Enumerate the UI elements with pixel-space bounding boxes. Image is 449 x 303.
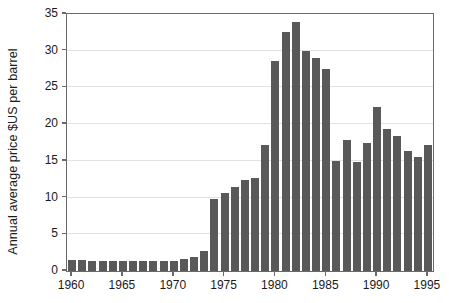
bar [129, 261, 137, 271]
bar [149, 261, 157, 271]
bar [109, 261, 117, 271]
bar [160, 261, 168, 271]
bar-series-group [67, 14, 433, 271]
bar [170, 261, 178, 271]
x-axis-tick-mark [172, 272, 174, 276]
x-axis-tick-mark [274, 272, 276, 276]
y-axis-tick-label: 35 [18, 7, 58, 19]
plot-area [66, 13, 434, 272]
bar [332, 161, 340, 271]
bar [119, 261, 127, 271]
y-axis-tick-label: 30 [18, 44, 58, 56]
bar [68, 260, 76, 271]
plot-inner [67, 14, 433, 271]
y-axis-tick-label: 0 [18, 264, 58, 276]
bar [373, 107, 381, 271]
bar [221, 193, 229, 271]
bar [99, 261, 107, 271]
bar [271, 61, 279, 271]
bar [251, 178, 259, 271]
x-axis-tick-mark [325, 272, 327, 276]
bar [302, 51, 310, 271]
bar [404, 151, 412, 271]
bar [241, 180, 249, 271]
y-axis-tick-label: 10 [18, 191, 58, 203]
bar [282, 32, 290, 271]
y-axis-tick-label: 15 [18, 154, 58, 166]
x-axis-tick-mark [375, 272, 377, 276]
bar [363, 143, 371, 271]
bar [231, 187, 239, 271]
x-axis-tick-label: 1985 [302, 279, 348, 291]
bar [343, 140, 351, 271]
x-axis-tick-label: 1970 [150, 279, 196, 291]
bar [312, 58, 320, 271]
bar [180, 259, 188, 271]
bar-chart: Annual average price $US per barrel 0510… [0, 0, 449, 303]
y-axis-tick-label: 20 [18, 117, 58, 129]
bar [200, 251, 208, 271]
bar [190, 257, 198, 271]
x-axis-tick-label: 1975 [201, 279, 247, 291]
bar [424, 145, 432, 271]
bar [383, 129, 391, 271]
y-axis-tick-label: 5 [18, 227, 58, 239]
bar [353, 162, 361, 271]
bar [88, 261, 96, 271]
x-axis-tick-label: 1995 [404, 279, 449, 291]
x-axis-tick-label: 1980 [251, 279, 297, 291]
x-axis-tick-mark [121, 272, 123, 276]
x-axis-tick-mark [70, 272, 72, 276]
bar [322, 69, 330, 271]
bar [78, 260, 86, 271]
bar [139, 261, 147, 271]
bar [414, 157, 422, 271]
x-axis-tick-label: 1965 [99, 279, 145, 291]
x-axis-tick-mark [223, 272, 225, 276]
bar [393, 136, 401, 271]
y-axis-tick-label: 25 [18, 80, 58, 92]
x-axis-tick-label: 1990 [353, 279, 399, 291]
bar [210, 199, 218, 271]
bar [292, 22, 300, 271]
bar [261, 145, 269, 271]
x-axis-tick-label: 1960 [48, 279, 94, 291]
x-axis-tick-mark [426, 272, 428, 276]
